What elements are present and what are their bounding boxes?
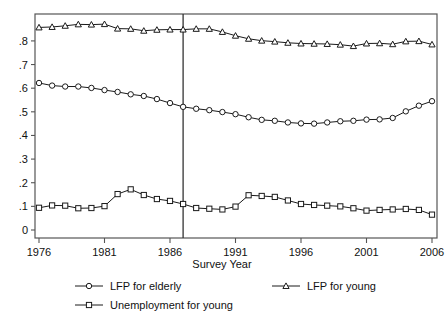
series-lfp-for-elderly bbox=[36, 80, 434, 126]
data-point-circle bbox=[416, 103, 421, 108]
data-series-group bbox=[36, 21, 435, 217]
y-axis-ticks: 0.1.2.3.4.5.6.7.8 bbox=[19, 35, 35, 236]
y-axis-tick-label: .3 bbox=[19, 153, 28, 165]
data-point-square bbox=[76, 206, 81, 211]
legend-item-lfp-for-young[interactable]: LFP for young bbox=[272, 280, 376, 292]
data-point-circle bbox=[364, 117, 369, 122]
data-point-circle bbox=[390, 115, 395, 120]
data-point-circle bbox=[154, 96, 159, 101]
data-point-square bbox=[338, 204, 343, 209]
y-axis-tick-label: .7 bbox=[19, 59, 28, 71]
data-point-circle bbox=[207, 107, 212, 112]
data-point-circle bbox=[285, 120, 290, 125]
data-point-square bbox=[50, 203, 55, 208]
chart-container: 0.1.2.3.4.5.6.7.8 1976198119861991199620… bbox=[0, 0, 445, 327]
data-point-square bbox=[416, 207, 421, 212]
data-point-circle bbox=[141, 93, 146, 98]
x-axis-tick-label: 2006 bbox=[420, 246, 444, 258]
x-axis-tick-label: 1976 bbox=[27, 246, 51, 258]
data-point-circle bbox=[49, 83, 54, 88]
data-point-circle bbox=[36, 80, 41, 85]
x-axis-tick-label: 2001 bbox=[354, 246, 378, 258]
x-axis-title: Survey Year bbox=[192, 258, 252, 270]
data-point-circle bbox=[233, 111, 238, 116]
data-point-circle bbox=[272, 118, 277, 123]
data-point-square bbox=[63, 203, 68, 208]
data-point-circle bbox=[377, 117, 382, 122]
data-point-square bbox=[102, 204, 107, 209]
data-point-square bbox=[403, 206, 408, 211]
data-point-circle bbox=[325, 120, 330, 125]
data-point-circle bbox=[167, 100, 172, 105]
data-point-square bbox=[128, 187, 133, 192]
data-point-square bbox=[86, 302, 91, 307]
data-point-circle bbox=[76, 84, 81, 89]
data-point-square bbox=[429, 212, 434, 217]
data-point-circle bbox=[180, 104, 185, 109]
series-unemployment-for-young bbox=[36, 187, 434, 217]
line-chart: 0.1.2.3.4.5.6.7.8 1976198119861991199620… bbox=[0, 0, 445, 327]
data-point-square bbox=[259, 193, 264, 198]
x-axis-tick-label: 1986 bbox=[158, 246, 182, 258]
data-point-circle bbox=[351, 118, 356, 123]
data-point-square bbox=[89, 205, 94, 210]
legend-label: Unemployment for young bbox=[110, 299, 233, 311]
data-point-square bbox=[167, 198, 172, 203]
y-axis-tick-label: .2 bbox=[19, 177, 28, 189]
data-point-circle bbox=[62, 84, 67, 89]
data-point-square bbox=[154, 196, 159, 201]
legend-label: LFP for elderly bbox=[110, 280, 182, 292]
x-axis-ticks: 1976198119861991199620012006 bbox=[27, 238, 444, 258]
chart-legend: LFP for elderlyLFP for youngUnemployment… bbox=[75, 280, 376, 311]
data-point-circle bbox=[403, 109, 408, 114]
data-point-square bbox=[298, 201, 303, 206]
data-point-circle bbox=[86, 283, 91, 288]
data-point-circle bbox=[220, 109, 225, 114]
data-point-square bbox=[115, 191, 120, 196]
data-point-square bbox=[141, 192, 146, 197]
data-point-square bbox=[207, 206, 212, 211]
data-point-square bbox=[233, 204, 238, 209]
data-point-square bbox=[364, 208, 369, 213]
y-axis-tick-label: .4 bbox=[19, 129, 28, 141]
data-point-circle bbox=[102, 87, 107, 92]
legend-item-lfp-for-elderly[interactable]: LFP for elderly bbox=[75, 280, 182, 292]
data-point-circle bbox=[311, 121, 316, 126]
x-axis-tick-label: 1991 bbox=[223, 246, 247, 258]
data-point-square bbox=[36, 205, 41, 210]
data-point-square bbox=[272, 194, 277, 199]
data-point-circle bbox=[429, 98, 434, 103]
data-point-circle bbox=[115, 89, 120, 94]
y-axis-tick-label: 0 bbox=[22, 224, 28, 236]
data-point-square bbox=[194, 205, 199, 210]
series-lfp-for-young bbox=[36, 21, 435, 49]
data-point-circle bbox=[194, 106, 199, 111]
data-point-square bbox=[285, 198, 290, 203]
data-point-circle bbox=[128, 92, 133, 97]
data-point-circle bbox=[259, 117, 264, 122]
data-point-circle bbox=[89, 85, 94, 90]
data-point-square bbox=[181, 201, 186, 206]
x-axis-tick-label: 1981 bbox=[92, 246, 116, 258]
data-point-square bbox=[377, 207, 382, 212]
legend-label: LFP for young bbox=[307, 280, 376, 292]
data-point-circle bbox=[246, 115, 251, 120]
legend-item-unemployment-for-young[interactable]: Unemployment for young bbox=[75, 299, 233, 311]
y-axis-tick-label: .6 bbox=[19, 82, 28, 94]
data-point-square bbox=[312, 202, 317, 207]
y-axis-tick-label: .8 bbox=[19, 35, 28, 47]
x-axis-tick-label: 1996 bbox=[289, 246, 313, 258]
data-point-square bbox=[220, 207, 225, 212]
data-point-circle bbox=[298, 121, 303, 126]
data-point-square bbox=[351, 206, 356, 211]
data-point-square bbox=[325, 203, 330, 208]
data-point-square bbox=[246, 193, 251, 198]
y-axis-tick-label: .5 bbox=[19, 106, 28, 118]
y-axis-tick-label: .1 bbox=[19, 200, 28, 212]
data-point-circle bbox=[338, 119, 343, 124]
data-point-square bbox=[390, 207, 395, 212]
